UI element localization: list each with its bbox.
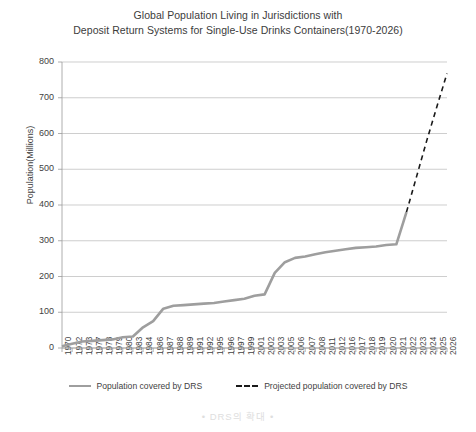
legend-item-projected: Projected population covered by DRS xyxy=(236,381,407,391)
series-line xyxy=(62,212,406,346)
gridlines xyxy=(62,62,447,348)
chart-figure: Global Population Living in Jurisdiction… xyxy=(0,0,476,432)
series-line xyxy=(406,73,447,212)
data-series-layer xyxy=(62,73,447,346)
legend-item-actual: Population covered by DRS xyxy=(69,381,203,391)
chart-legend: Population covered by DRS Projected popu… xyxy=(0,381,476,391)
plot-area xyxy=(0,0,476,432)
x-axis-ticks xyxy=(62,348,447,352)
legend-swatch-dashed-icon xyxy=(236,385,258,387)
legend-label-actual: Population covered by DRS xyxy=(97,381,203,391)
watermark: • DRS의 확대 • xyxy=(0,409,476,423)
legend-swatch-solid-icon xyxy=(69,385,91,387)
legend-label-projected: Projected population covered by DRS xyxy=(264,381,407,391)
